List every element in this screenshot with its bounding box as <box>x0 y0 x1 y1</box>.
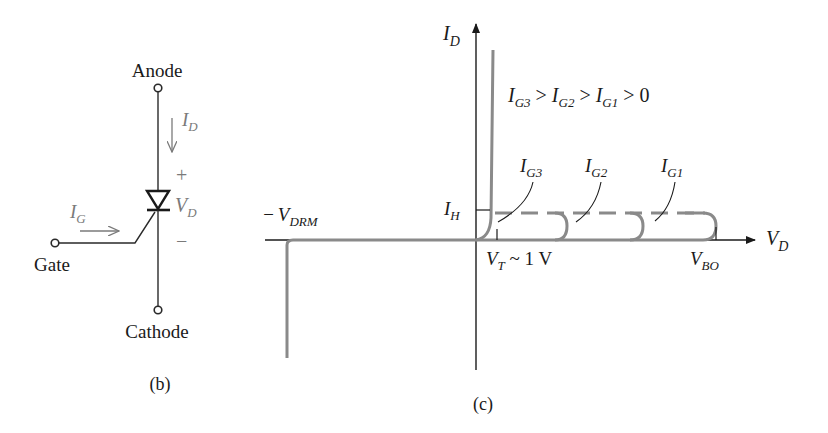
curve-ig2 <box>630 213 643 240</box>
plus-sign: + <box>176 164 187 186</box>
leader-ig1 <box>655 182 675 221</box>
leader-ig3 <box>498 182 533 222</box>
reverse-blocking-curve <box>287 240 476 358</box>
scr-diagram: Anode Cathode Gate ID + VD − IG (b) ID V… <box>0 0 828 433</box>
curve-ig3-return <box>555 213 567 240</box>
gate-current-relation: IG3 > IG2 > IG1 > 0 <box>507 84 650 110</box>
leader-ig2 <box>576 182 601 222</box>
curve-ig1 <box>476 213 716 240</box>
scr-symbol-panel: Anode Cathode Gate ID + VD − IG (b) <box>34 60 311 395</box>
x-axis-label: VD <box>766 227 788 254</box>
vd-label: VD <box>175 194 197 220</box>
y-axis-label: ID <box>442 22 460 49</box>
vdrm-label: −VDRM <box>262 204 319 229</box>
iv-characteristic-panel: ID VD −VDRM IH VT ~ 1 V VBO IG3 > IG2 > … <box>262 22 788 415</box>
caption-c: (c) <box>473 394 493 415</box>
gate-terminal <box>51 239 59 247</box>
gate-label: Gate <box>34 254 70 275</box>
vt-label: VT ~ 1 V <box>486 248 553 273</box>
vbo-label: VBO <box>690 248 720 273</box>
cathode-terminal <box>154 306 162 314</box>
cathode-label: Cathode <box>125 321 188 342</box>
ig-label: IG <box>69 201 86 226</box>
anode-terminal <box>154 84 162 92</box>
id-label: ID <box>181 109 198 134</box>
anode-label: Anode <box>132 60 183 81</box>
diode-triangle-icon <box>147 191 169 209</box>
curve-label-ig3: IG3 <box>519 155 543 180</box>
on-state-curve <box>476 50 493 240</box>
curve-label-ig1: IG1 <box>660 155 683 180</box>
ih-label: IH <box>443 198 460 223</box>
caption-b: (b) <box>150 374 171 395</box>
minus-sign: − <box>176 230 187 252</box>
curve-label-ig2: IG2 <box>584 155 608 180</box>
